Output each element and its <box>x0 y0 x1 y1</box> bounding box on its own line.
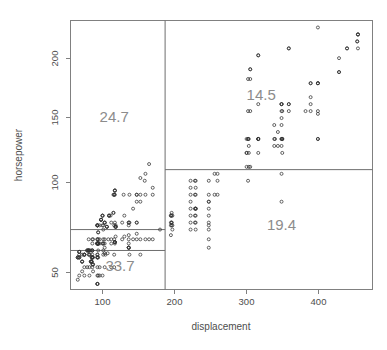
region-mean-label-3: 19.4 <box>267 216 296 233</box>
data-point <box>194 228 197 231</box>
data-point <box>143 179 146 182</box>
data-point <box>338 71 341 74</box>
plot-frame <box>71 21 373 290</box>
data-point <box>194 186 197 189</box>
data-point <box>316 137 319 140</box>
data-point <box>151 186 154 189</box>
data-point <box>287 103 290 106</box>
data-point <box>81 260 84 263</box>
data-points-layer <box>76 26 359 285</box>
data-point <box>309 103 312 106</box>
data-point <box>121 238 124 241</box>
data-point <box>127 246 130 249</box>
data-point <box>113 189 116 192</box>
data-point <box>132 238 135 241</box>
data-point <box>207 228 210 231</box>
data-point <box>144 172 147 175</box>
x-tick-label-300: 300 <box>239 296 255 307</box>
data-point <box>249 68 252 71</box>
data-point <box>316 26 319 29</box>
data-point <box>135 238 138 241</box>
data-point <box>207 193 210 196</box>
data-point <box>207 214 210 217</box>
data-point <box>309 110 312 113</box>
data-point <box>280 144 283 147</box>
y-tick-label-50: 50 <box>49 267 60 278</box>
data-point <box>287 47 290 50</box>
data-point <box>139 238 142 241</box>
data-point <box>316 82 319 85</box>
data-point <box>280 117 283 120</box>
data-point <box>189 186 192 189</box>
data-point <box>189 200 192 203</box>
y-axis-ticks <box>66 59 71 273</box>
scatter-plot-figure: 50 100 150 200 100 200 300 400 displacem… <box>0 0 387 350</box>
data-point <box>287 110 290 113</box>
data-point <box>207 179 210 182</box>
data-point <box>257 103 260 106</box>
data-point <box>87 238 90 241</box>
data-point <box>78 274 81 277</box>
data-point <box>132 207 135 210</box>
data-point <box>189 228 192 231</box>
data-point <box>257 54 260 57</box>
data-point <box>257 137 260 140</box>
data-point <box>113 221 116 224</box>
data-point <box>151 193 154 196</box>
x-axis-title: displacement <box>192 321 251 332</box>
data-point <box>189 221 192 224</box>
data-point <box>189 207 192 210</box>
data-point <box>356 33 359 36</box>
data-point <box>148 238 151 241</box>
data-point <box>135 200 138 203</box>
data-point <box>139 200 142 203</box>
data-point <box>112 211 115 214</box>
y-axis-tick-labels: 50 100 150 200 <box>49 51 60 278</box>
data-point <box>81 270 84 273</box>
data-point <box>83 274 86 277</box>
x-tick-label-100: 100 <box>95 296 111 307</box>
x-tick-label-400: 400 <box>311 296 327 307</box>
partition-split-lines <box>71 21 373 290</box>
data-point <box>122 193 125 196</box>
data-point <box>207 238 210 241</box>
data-point <box>101 214 104 217</box>
data-point <box>216 179 219 182</box>
x-tick-label-200: 200 <box>167 296 183 307</box>
data-point <box>91 242 94 245</box>
data-point <box>139 177 142 180</box>
data-point <box>100 218 103 221</box>
data-point <box>92 270 95 273</box>
data-point <box>128 253 131 256</box>
data-point <box>276 144 279 147</box>
y-tick-label-150: 150 <box>49 110 60 126</box>
data-point <box>96 282 99 285</box>
data-point <box>247 179 250 182</box>
data-point <box>128 193 131 196</box>
region-mean-label-0: 24.7 <box>100 108 129 125</box>
data-point <box>127 238 130 241</box>
plot-canvas: 50 100 150 200 100 200 300 400 displacem… <box>0 0 387 350</box>
data-point <box>135 221 138 224</box>
data-point <box>280 172 283 175</box>
data-point <box>97 231 100 234</box>
data-point <box>144 238 147 241</box>
data-point <box>139 253 142 256</box>
data-point <box>135 232 138 235</box>
data-point <box>148 163 151 166</box>
x-axis-ticks <box>103 290 319 295</box>
y-tick-label-100: 100 <box>49 175 60 191</box>
data-point <box>247 144 250 147</box>
y-axis-title: horsepower <box>13 128 24 181</box>
data-point <box>280 103 283 106</box>
data-point <box>257 151 260 154</box>
data-point <box>356 47 359 50</box>
data-point <box>346 47 349 50</box>
data-point <box>127 242 130 245</box>
data-point <box>273 124 276 127</box>
data-point <box>135 193 138 196</box>
data-point <box>356 40 359 43</box>
data-point <box>207 246 210 249</box>
x-axis-tick-labels: 100 200 300 400 <box>95 296 327 307</box>
region-mean-label-1: 33.7 <box>105 257 134 274</box>
